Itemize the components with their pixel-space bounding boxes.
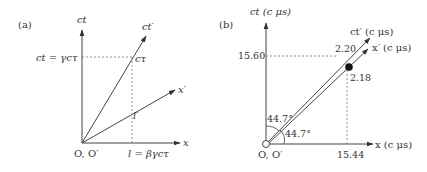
panel-b-tag: (b) <box>219 19 233 30</box>
x-axis-label: x <box>183 137 189 148</box>
panel-b: (b) ct (c μs) x (c μs) ct′ (c μs) x′ (c … <box>219 6 412 160</box>
x-prime-axis-label: x′ (c μs) <box>372 42 411 53</box>
x-prime-axis <box>269 49 368 143</box>
origin-label: O, O′ <box>74 148 99 159</box>
ct-prime-axis-label: ct′ (c μs) <box>350 26 393 37</box>
ct-var: ct (c μs) <box>250 6 291 17</box>
ctau-label: cτ <box>135 53 147 64</box>
panel-a-tag: (a) <box>18 19 32 30</box>
event-point <box>345 63 353 71</box>
spacetime-diagrams: (a) ct x ct′ x′ ct = γcτ cτ l′ O, O′ l =… <box>0 0 427 172</box>
x-prime-value-label: 2.18 <box>350 72 371 83</box>
origin-label: O, O′ <box>258 149 283 160</box>
x-value-label: 15.44 <box>337 149 364 160</box>
ct-axis-label: ct <box>77 14 88 25</box>
ct-prime-value-label: 2.20 <box>335 43 356 54</box>
panel-a: (a) ct x ct′ x′ ct = γcτ cτ l′ O, O′ l =… <box>18 14 189 159</box>
ct-value-label: 15.60 <box>238 50 265 61</box>
origin-marker <box>263 141 270 148</box>
angle-bottom-label: 44.7° <box>285 128 311 139</box>
angle-arc-top <box>266 126 279 131</box>
x-axis-label: x (c μs) <box>375 139 412 150</box>
angle-top-label: 44.7° <box>267 113 293 124</box>
x-prime-axis-label: x′ <box>178 84 187 95</box>
ct-equation: ct = γcτ <box>36 52 78 63</box>
l-prime-label: l′ <box>133 110 139 121</box>
ct-prime-axis-label: ct′ <box>142 21 155 32</box>
x-prime-axis <box>82 90 175 143</box>
ct-axis-label: ct (c μs) <box>250 6 291 17</box>
l-equation: l = βγcτ <box>128 148 169 159</box>
